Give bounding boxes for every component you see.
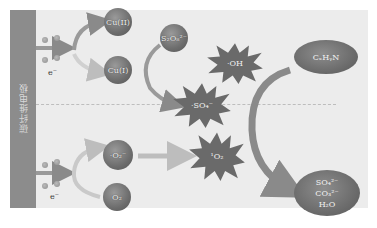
radical-sulfate: ·SO₄⁻ xyxy=(172,82,232,128)
electron-dot xyxy=(42,162,48,168)
radical-hydroxyl-label: ·OH xyxy=(227,59,243,68)
node-cu-ii: Cu(II) xyxy=(104,8,132,36)
node-pollutant: CₓHᵧN xyxy=(294,40,358,74)
electron-dot xyxy=(54,159,60,165)
node-cu-i-label: Cu(I) xyxy=(108,66,129,75)
electron-dot xyxy=(42,183,48,189)
electron-label-upper: e⁻ xyxy=(48,68,57,77)
electron-dot xyxy=(54,35,60,41)
node-products: SO₄²⁻ CO₃²⁻ H₂O xyxy=(294,170,360,216)
radical-hydroxyl: ·OH xyxy=(206,42,264,84)
node-pollutant-label: CₓHᵧN xyxy=(313,52,340,63)
node-persulfate: S₂O₈²⁻ xyxy=(160,24,188,52)
radical-sulfate-label: ·SO₄⁻ xyxy=(191,101,213,110)
node-persulfate-label: S₂O₈²⁻ xyxy=(161,34,187,43)
node-cu-i: Cu(I) xyxy=(104,56,132,84)
node-cu-ii-label: Cu(II) xyxy=(106,18,130,27)
singlet-oxygen-label: ¹O₂ xyxy=(211,152,224,161)
electron-dot xyxy=(42,57,48,63)
singlet-oxygen: ¹O₂ xyxy=(188,131,246,181)
product-water: H₂O xyxy=(319,199,336,210)
node-oxygen-label: O₂ xyxy=(112,193,122,202)
node-superoxide-label: ·O₂⁻ xyxy=(110,151,127,160)
electron-dot xyxy=(54,55,60,61)
node-oxygen: O₂ xyxy=(103,183,131,211)
node-superoxide: ·O₂⁻ xyxy=(103,140,133,170)
electron-label-lower: e⁻ xyxy=(50,192,59,201)
product-carbonate: CO₃²⁻ xyxy=(315,188,338,199)
electron-dot xyxy=(54,181,60,187)
product-sulfate: SO₄²⁻ xyxy=(316,177,339,188)
electron-dot xyxy=(42,37,48,43)
